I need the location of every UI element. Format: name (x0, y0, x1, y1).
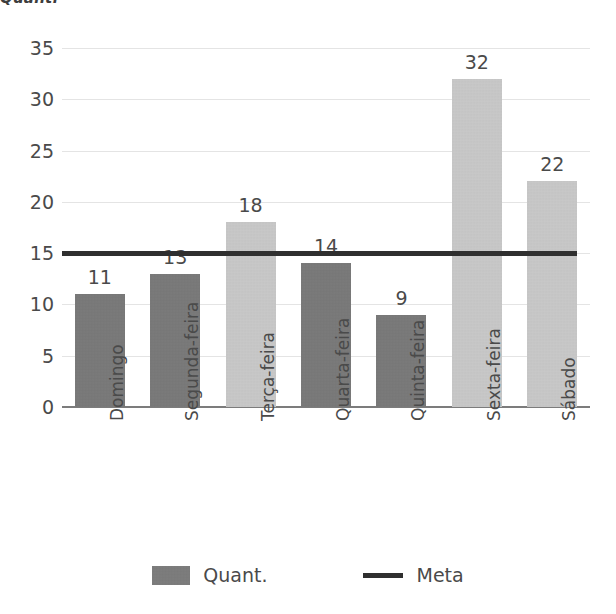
bar-value-label: 9 (361, 289, 441, 308)
y-axis-tick-label: 30 (8, 90, 54, 109)
bar-value-label: 22 (512, 155, 592, 174)
gridline (62, 48, 590, 49)
legend-bar-swatch-icon (152, 566, 190, 585)
y-axis-tick-label: 0 (8, 398, 54, 417)
x-axis-category-label: Sábado (561, 357, 578, 421)
bar-value-label: 32 (437, 53, 517, 72)
x-axis-category-label: Segunda-feira (184, 301, 201, 421)
bar-chart: Quant. 05101520253035 1113181493222 Domi… (0, 0, 616, 614)
legend-item[interactable]: Meta (363, 566, 463, 585)
legend-label: Quant. (203, 566, 267, 585)
gridline (62, 99, 590, 100)
y-axis-tick-label: 10 (8, 295, 54, 314)
x-axis-category-label: Terça-feira (260, 332, 277, 421)
x-axis-category-label: Domingo (109, 344, 126, 421)
y-axis-tick-label: 20 (8, 192, 54, 211)
y-axis-tick-label: 15 (8, 244, 54, 263)
legend-label: Meta (416, 566, 463, 585)
plot-area: 1113181493222 (62, 48, 590, 407)
bar-value-label: 18 (211, 196, 291, 215)
y-axis-tick-label: 25 (8, 141, 54, 160)
clipped-header-text: Quant. (0, 0, 58, 9)
meta-target-line[interactable] (62, 251, 577, 256)
y-axis-tick-label: 5 (8, 346, 54, 365)
x-axis-category-label: Quinta-feira (410, 320, 427, 421)
bar-value-label: 11 (60, 268, 140, 287)
gridline (62, 202, 590, 203)
x-axis-category-label: Sexta-feira (486, 328, 503, 421)
x-axis-category-label: Quarta-feira (335, 318, 352, 421)
chart-legend: Quant.Meta (0, 566, 616, 585)
gridline (62, 151, 590, 152)
y-axis-tick-label: 35 (8, 39, 54, 58)
legend-line-swatch-icon (363, 573, 403, 578)
legend-item[interactable]: Quant. (152, 566, 267, 585)
